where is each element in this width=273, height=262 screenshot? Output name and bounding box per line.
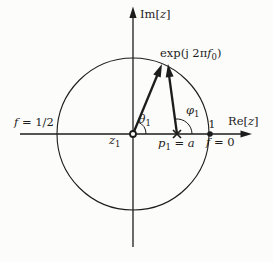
phi-angle-label: φ1 xyxy=(186,103,199,119)
imaginary-axis-arrowhead xyxy=(129,7,136,19)
exp-vector-label: exp(j 2πf0) xyxy=(160,46,221,62)
phi-subscript: 1 xyxy=(194,109,199,119)
imaginary-axis-label: Im[z] xyxy=(140,7,171,21)
exp-label-suffix: ) xyxy=(217,46,222,60)
phi-symbol: φ xyxy=(186,103,194,117)
pole-point-label: p1 = a xyxy=(158,136,195,152)
exp-label-prefix: exp(j 2π xyxy=(160,46,208,60)
pole-point-value: a xyxy=(188,136,195,150)
z-plane-diagram: Im[z] Re[z] exp(j 2πf0) θ1 φ1 f = 1/2 f … xyxy=(0,0,273,262)
zero-point-label: z1 xyxy=(108,133,120,149)
f-half-label: f = 1/2 xyxy=(13,115,54,129)
unit-point-label: 1 xyxy=(208,117,215,131)
theta-symbol: θ xyxy=(139,112,146,126)
f-zero-eq: = 0 xyxy=(210,135,234,149)
real-axis-label-open: Re[ xyxy=(228,114,248,128)
f-zero-label: f = 0 xyxy=(205,135,235,149)
real-axis-label-close: ] xyxy=(254,114,259,128)
imaginary-axis-label-close: ] xyxy=(166,7,171,21)
pole-vector xyxy=(169,75,177,134)
origin-vector-arrowhead xyxy=(153,64,162,78)
pole-point-eq: = xyxy=(171,136,188,150)
zero-marker xyxy=(130,131,136,137)
imaginary-axis-label-open: Im[ xyxy=(140,7,160,21)
real-axis-label: Re[z] xyxy=(228,114,259,128)
theta-angle-label: θ1 xyxy=(139,112,151,128)
f-half-eq: = 1/2 xyxy=(18,115,53,129)
theta-subscript: 1 xyxy=(145,118,150,128)
z-plane-figure: Im[z] Re[z] exp(j 2πf0) θ1 φ1 f = 1/2 f … xyxy=(0,0,273,262)
zero-point-subscript: 1 xyxy=(115,139,120,149)
real-axis-arrowhead xyxy=(241,130,253,137)
